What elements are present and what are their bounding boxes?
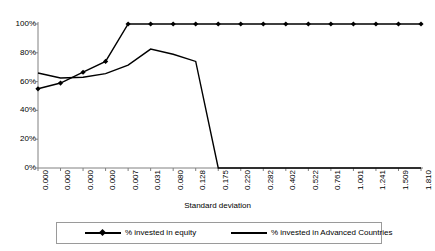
- data-point-marker: [216, 21, 221, 26]
- data-point-marker: [306, 21, 311, 26]
- data-point-marker: [396, 21, 401, 26]
- legend-item-advanced-countries: % invested in Advanced Countries: [231, 227, 392, 239]
- x-tick-label: 0.031: [154, 170, 162, 190]
- x-tick-label: 0.522: [312, 170, 320, 190]
- x-tick-label: 0.220: [244, 170, 252, 190]
- axes-group: [35, 22, 423, 171]
- series-line-equity: [38, 24, 421, 89]
- data-point-marker: [238, 21, 243, 26]
- data-point-marker: [283, 21, 288, 26]
- plot-area: [0, 0, 435, 180]
- legend-key-diamond-line-icon: [85, 228, 121, 238]
- data-point-marker: [261, 21, 266, 26]
- legend-label: % invested in equity: [125, 228, 196, 238]
- data-point-marker: [328, 21, 333, 26]
- chart-container: 100% 80% 60% 40% 20% 0% 0.0000.0000.0000…: [0, 0, 435, 251]
- series-markers-equity: [35, 21, 423, 91]
- data-point-marker: [373, 21, 378, 26]
- x-axis-tick-labels: 0.0000.0000.0000.0000.0070.0310.0800.128…: [0, 170, 435, 202]
- x-tick-label: 0.000: [109, 170, 117, 190]
- x-tick-label: 0.000: [64, 170, 72, 190]
- legend-key-line-icon: [231, 228, 267, 238]
- x-tick-label: 1.241: [379, 170, 387, 190]
- x-tick-label: 0.007: [132, 170, 140, 190]
- data-point-marker: [35, 86, 40, 91]
- x-tick-label: 1.509: [402, 170, 410, 190]
- x-tick-label: 0.282: [267, 170, 275, 190]
- data-point-marker: [80, 70, 85, 75]
- x-tick-label: 0.761: [334, 170, 342, 190]
- data-point-marker: [148, 21, 153, 26]
- legend-item-equity: % invested in equity: [85, 227, 196, 239]
- x-tick-label: 1.001: [357, 170, 365, 190]
- legend: % invested in equity % invested in Advan…: [56, 222, 382, 244]
- x-tick-label: 0.402: [289, 170, 297, 190]
- x-tick-label: 0.080: [177, 170, 185, 190]
- x-tick-label: 0.175: [222, 170, 230, 190]
- data-point-marker: [351, 21, 356, 26]
- x-axis-title: Standard deviation: [0, 201, 435, 211]
- data-point-marker: [171, 21, 176, 26]
- plot-svg: [0, 0, 435, 180]
- legend-label: % invested in Advanced Countries: [271, 228, 392, 238]
- x-tick-label: 0.000: [87, 170, 95, 190]
- data-point-marker: [58, 80, 63, 85]
- data-point-marker: [418, 21, 423, 26]
- data-point-marker: [193, 21, 198, 26]
- x-tick-label: 0.000: [42, 170, 50, 190]
- x-tick-label: 0.128: [199, 170, 207, 190]
- x-tick-label: 1.810: [425, 170, 433, 190]
